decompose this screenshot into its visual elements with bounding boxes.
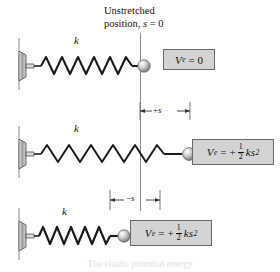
dimension-minus-s-symbol: s	[131, 193, 135, 203]
stiffness-label-unstretched: k	[74, 34, 79, 46]
spring-assembly-unstretched	[14, 44, 154, 88]
equation-variable-1: V	[175, 54, 182, 66]
spring-potential-energy-figure: Unstretched position, s = 0	[0, 0, 280, 272]
spring-assembly-stretched	[14, 132, 204, 176]
equation-term-2: ks	[246, 146, 255, 158]
dimension-minus-s-label: −s	[126, 193, 135, 203]
equation-numerator-2: 1	[238, 143, 244, 151]
equation-box-stretched: Ve=+ 1 2 ks2	[192, 139, 274, 165]
equation-relation-2: =	[220, 146, 226, 158]
equation-subscript-2: e	[214, 148, 217, 157]
equation-subscript-3: e	[152, 229, 155, 238]
equation-subscript-1: e	[182, 55, 185, 64]
equation-relation-3: =	[158, 227, 164, 239]
title-line-1: Unstretched	[104, 5, 155, 16]
title-line-2-prefix: position,	[104, 18, 143, 29]
dimension-plus-s: +s	[132, 100, 198, 122]
dimension-plus-s-label: +s	[153, 105, 162, 115]
dimension-minus-s-graphic	[104, 190, 166, 212]
equation-sign-3: +	[168, 227, 174, 239]
equation-variable-3: V	[145, 227, 152, 239]
equation-box-compressed: Ve=+ 1 2 ks2	[130, 220, 212, 246]
equation-numerator-3: 1	[176, 224, 182, 232]
spring-compressed-graphic	[14, 214, 139, 258]
equation-fraction-3: 1 2	[176, 224, 182, 242]
title-line-2-suffix: = 0	[147, 18, 163, 29]
dimension-plus-s-symbol: s	[158, 105, 162, 115]
dimension-plus-s-graphic	[132, 100, 198, 122]
equation-denominator-2: 2	[238, 153, 244, 161]
equation-denominator-3: 2	[176, 234, 182, 242]
equation-exponent-2: 2	[255, 148, 259, 157]
equation-term-3: ks	[184, 227, 193, 239]
figure-title: Unstretched position, s = 0	[104, 5, 224, 30]
equation-variable-2: V	[207, 146, 214, 158]
equation-sign-2: +	[230, 146, 236, 158]
equation-relation-1: = 0	[189, 54, 203, 66]
equation-exponent-3: 2	[193, 229, 197, 238]
spring-stretched-graphic	[14, 132, 204, 176]
figure-caption: The elastic potential energy	[0, 259, 280, 272]
equation-fraction-2: 1 2	[238, 143, 244, 161]
equation-box-unstretched: Ve= 0	[163, 49, 215, 70]
dimension-minus-s: −s	[104, 190, 166, 212]
spring-unstretched-graphic	[14, 44, 154, 88]
stiffness-label-stretched: k	[74, 122, 79, 134]
stiffness-label-compressed: k	[62, 205, 67, 217]
spring-assembly-compressed	[14, 214, 139, 258]
